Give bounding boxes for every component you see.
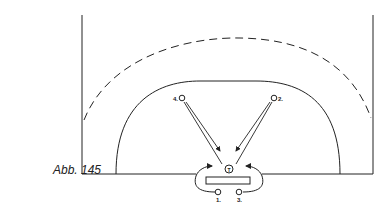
svg-text:T: T	[227, 167, 230, 173]
svg-text:4.: 4.	[173, 96, 178, 102]
court-boundary	[82, 15, 373, 174]
pass-arrows	[184, 102, 272, 164]
baseline-box	[206, 177, 250, 184]
three-point-line	[84, 38, 371, 120]
figure-caption: Abb. 145	[53, 163, 101, 177]
position-3: 3.	[236, 189, 242, 203]
position-4: 4.	[173, 95, 185, 101]
position-1: 1.	[215, 189, 221, 203]
free-throw-arc	[116, 81, 340, 174]
svg-text:2.: 2.	[278, 96, 283, 102]
court-diagram: T 4. 2. 1. 3.	[0, 0, 388, 210]
player-center: T	[225, 165, 233, 173]
svg-text:1.: 1.	[216, 197, 221, 203]
svg-text:3.: 3.	[237, 197, 242, 203]
position-2: 2.	[271, 95, 283, 101]
